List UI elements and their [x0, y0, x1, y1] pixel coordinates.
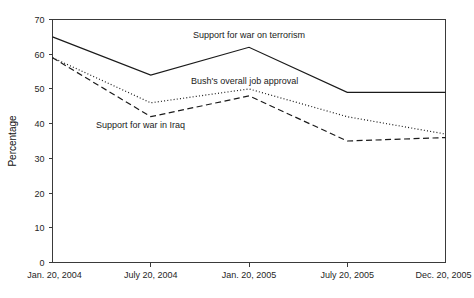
x-tick-label: Dec. 20, 2005: [415, 270, 471, 280]
y-tick-label: 50: [34, 84, 44, 94]
x-axis-ticks: Jan. 20, 2004July 20, 2004Jan. 20, 2005J…: [27, 263, 471, 280]
y-axis-title: Percentage: [7, 115, 18, 167]
series-annotation-label: Bush's overall job approval: [191, 76, 298, 86]
x-tick-label: July 20, 2005: [320, 270, 374, 280]
annotation-group: Support for war on terrorismBush's overa…: [96, 30, 305, 130]
y-tick-label: 10: [34, 223, 44, 233]
x-tick-label: Jan. 20, 2005: [222, 270, 277, 280]
y-tick-label: 0: [39, 258, 44, 268]
x-tick-label: Jan. 20, 2004: [27, 270, 82, 280]
x-tick-label: July 20, 2004: [124, 270, 178, 280]
y-axis-ticks: 010203040506070: [34, 15, 52, 268]
chart-container: 010203040506070 Jan. 20, 2004July 20, 20…: [0, 0, 474, 298]
y-tick-label: 20: [34, 189, 44, 199]
y-tick-label: 30: [34, 154, 44, 164]
y-tick-label: 70: [34, 15, 44, 25]
line-chart: 010203040506070 Jan. 20, 2004July 20, 20…: [0, 0, 474, 298]
series-annotation-label: Support for war on terrorism: [193, 30, 305, 40]
y-tick-label: 60: [34, 50, 44, 60]
series-annotation-label: Support for war in Iraq: [96, 120, 185, 130]
y-tick-label: 40: [34, 119, 44, 129]
plot-frame: [53, 20, 446, 263]
